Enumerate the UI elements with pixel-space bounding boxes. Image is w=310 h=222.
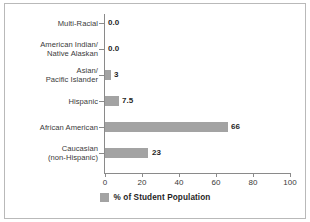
bar-african-american — [105, 122, 228, 132]
x-tick — [105, 173, 106, 177]
x-axis-line — [104, 173, 290, 174]
chart-figure: Multi-Racial 0.0 American Indian/ Native… — [0, 0, 310, 222]
bar-value-label: 66 — [231, 122, 240, 132]
plot-area: Multi-Racial 0.0 American Indian/ Native… — [0, 0, 310, 222]
category-label: Multi-Racial — [2, 19, 98, 28]
bar-row: Hispanic 7.5 — [0, 92, 310, 118]
bar-value-label: 23 — [152, 148, 161, 158]
category-label-line: Hispanic — [2, 97, 98, 106]
category-label: American Indian/ Native Alaskan — [2, 40, 98, 58]
category-label-line: Asian/ — [2, 66, 98, 75]
y-tick — [99, 101, 104, 102]
bar-caucasian-non-hispanic — [105, 148, 148, 158]
bar-row: African American 66 — [0, 118, 310, 144]
category-label: Caucasian (non-Hispanic) — [2, 144, 98, 162]
x-tick-label: 80 — [241, 178, 265, 187]
category-label-line: Multi-Racial — [2, 19, 98, 28]
bar-row: Asian/ Pacific Islander 3 — [0, 66, 310, 92]
bar-asian-pacific-islander — [105, 70, 111, 80]
category-label-line: Native Alaskan — [2, 49, 98, 58]
bar-row: Multi-Racial 0.0 — [0, 14, 310, 40]
y-tick — [99, 127, 104, 128]
y-tick — [99, 49, 104, 50]
category-label-line: Caucasian — [2, 144, 98, 153]
bar-value-label: 0.0 — [108, 44, 119, 54]
y-tick — [99, 23, 104, 24]
chart-legend: % of Student Population — [0, 193, 310, 202]
category-label: African American — [2, 123, 98, 132]
category-label-line: (non-Hispanic) — [2, 153, 98, 162]
y-tick — [99, 75, 104, 76]
x-tick — [179, 173, 180, 177]
category-label-line: African American — [2, 123, 98, 132]
category-label-line: American Indian/ — [2, 40, 98, 49]
x-tick — [216, 173, 217, 177]
bar-row: American Indian/ Native Alaskan 0.0 — [0, 40, 310, 66]
category-label-line: Pacific Islander — [2, 75, 98, 84]
x-tick — [290, 173, 291, 177]
bar-value-label: 3 — [114, 70, 118, 80]
legend-label: % of Student Population — [114, 193, 211, 202]
bar-value-label: 7.5 — [122, 96, 133, 106]
y-tick — [99, 153, 104, 154]
category-label: Hispanic — [2, 97, 98, 106]
bar-row: Caucasian (non-Hispanic) 23 — [0, 144, 310, 170]
category-label: Asian/ Pacific Islander — [2, 66, 98, 84]
x-tick-label: 60 — [204, 178, 228, 187]
x-tick-label: 0 — [93, 178, 117, 187]
x-tick-label: 100 — [278, 178, 302, 187]
x-tick — [142, 173, 143, 177]
bar-value-label: 0.0 — [108, 18, 119, 28]
x-tick-label: 20 — [130, 178, 154, 187]
bar-hispanic — [105, 96, 119, 106]
x-tick — [253, 173, 254, 177]
legend-swatch-icon — [100, 193, 109, 202]
x-tick-label: 40 — [167, 178, 191, 187]
